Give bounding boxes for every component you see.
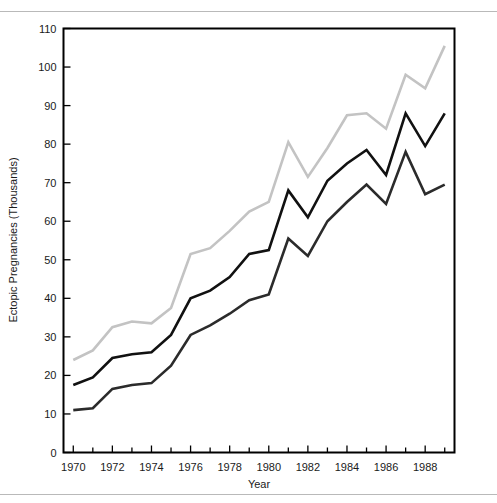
y-axis-title: Ectopic Pregnancies (Thousands) [7,157,19,322]
y-tick-label: 70 [44,177,56,189]
x-tick-label: 1970 [61,461,85,473]
y-tick-label: 90 [44,100,56,112]
plot-frame [64,29,455,453]
x-tick-label: 1984 [335,461,359,473]
line-chart-plot: 0102030405060708090100110 19701972197419… [0,0,497,503]
y-tick-label: 50 [44,254,56,266]
x-tick-label: 1976 [178,461,202,473]
bottom-divider-rule [0,494,497,495]
x-tick-label: 1986 [374,461,398,473]
y-tick-label: 10 [44,408,56,420]
x-tick-label: 1980 [257,461,281,473]
y-tick-label: 0 [50,447,56,459]
x-tick-label: 1988 [413,461,437,473]
series-line-upper [73,46,444,360]
y-tick-label: 40 [44,292,56,304]
x-tick-label: 1978 [217,461,241,473]
x-axis-tick-group: 1970197219741976197819801982198419861988 [61,446,445,473]
y-tick-label: 60 [44,215,56,227]
y-tick-label: 20 [44,369,56,381]
series-line-lower [73,152,444,410]
figure-container: 0102030405060708090100110 19701972197419… [0,0,497,503]
series-line-point-estimate [73,113,444,385]
x-tick-label: 1972 [100,461,124,473]
y-tick-label: 110 [39,23,57,35]
x-tick-label: 1982 [296,461,320,473]
y-tick-label: 30 [44,331,56,343]
y-axis-tick-group: 0102030405060708090100110 [38,23,70,459]
y-tick-label: 80 [44,138,56,150]
y-tick-label: 100 [38,61,56,73]
series-group [73,46,444,410]
x-axis-title: Year [248,478,271,490]
x-tick-label: 1974 [139,461,163,473]
